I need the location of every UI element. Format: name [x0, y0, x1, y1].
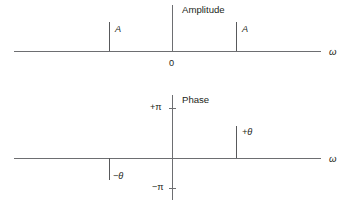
- amplitude-origin-label: 0: [169, 59, 174, 68]
- phase-spike-positive: [236, 126, 237, 158]
- phase-tick-negative-pi: [169, 188, 176, 189]
- phase-tick-positive-pi: [169, 108, 176, 109]
- amplitude-spike-positive: [236, 22, 237, 51]
- phase-spike-negative: [109, 158, 110, 180]
- phase-horizontal-axis: [14, 158, 321, 159]
- amplitude-spike-negative-label: A: [115, 25, 121, 34]
- amplitude-axis-title: Amplitude: [182, 5, 225, 15]
- phase-omega-label: ω: [329, 154, 336, 164]
- phase-axis-title: Phase: [182, 95, 209, 105]
- phase-spike-positive-label: +θ: [242, 128, 252, 137]
- spectrum-figure: Amplitude 0 A A ω Phase +π −π −θ +θ ω: [0, 0, 358, 204]
- amplitude-horizontal-axis: [14, 51, 321, 52]
- phase-label-negative-pi: −π: [152, 183, 164, 192]
- amplitude-spike-negative: [109, 22, 110, 51]
- phase-spike-negative-label: −θ: [113, 172, 123, 181]
- amplitude-vertical-axis: [172, 5, 173, 51]
- amplitude-omega-label: ω: [329, 47, 336, 57]
- phase-label-positive-pi: +π: [150, 103, 162, 112]
- phase-vertical-axis: [172, 95, 173, 200]
- amplitude-spike-positive-label: A: [242, 25, 248, 34]
